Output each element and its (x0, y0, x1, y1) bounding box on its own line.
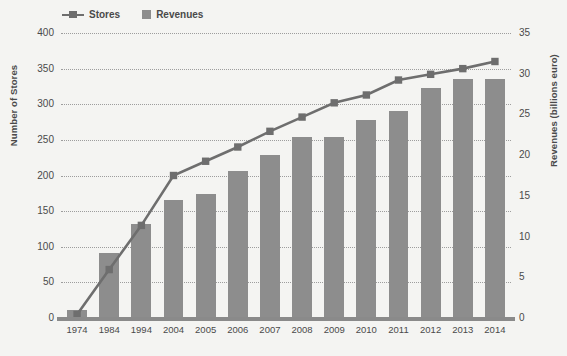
x-tick-label: 2013 (447, 324, 479, 335)
stores-marker-2005 (202, 158, 209, 165)
x-tick-label: 1984 (93, 324, 125, 335)
plot-area: 400350300250200150100500 35302520151050 (61, 33, 511, 318)
x-tick-label: 2009 (318, 324, 350, 335)
stores-marker-2012 (427, 71, 434, 78)
y-tick-label-right: 0 (519, 313, 525, 323)
square-swatch-icon (142, 10, 151, 19)
legend-item-revenues: Revenues (142, 9, 203, 20)
stores-marker-2014 (491, 58, 498, 65)
y-tick-label-right: 35 (519, 28, 530, 38)
stores-marker-1994 (138, 222, 145, 229)
stores-marker-2011 (395, 76, 402, 83)
y-tick-label-left: 300 (37, 99, 54, 109)
y-tick-label-left: 400 (37, 28, 54, 38)
x-tick-label: 2004 (157, 324, 189, 335)
y-tick-label-right: 25 (519, 109, 530, 119)
chart-legend: Stores Revenues (62, 9, 203, 20)
y-tick-label-left: 200 (37, 171, 54, 181)
y-tick-label-right: 20 (519, 150, 530, 160)
y-axis-left-title: Number of Stores (8, 46, 19, 166)
y-tick-label-left: 350 (37, 64, 54, 74)
chart-container: Number of Stores Revenues (billions euro… (0, 0, 567, 356)
stores-line-path (77, 62, 495, 315)
x-tick-label: 2008 (286, 324, 318, 335)
stores-marker-1984 (106, 266, 113, 273)
stores-marker-2006 (234, 143, 241, 150)
line-series-stores (61, 33, 511, 318)
legend-label-revenues: Revenues (156, 9, 203, 20)
stores-marker-2008 (298, 113, 305, 120)
legend-item-stores: Stores (62, 9, 120, 20)
legend-label-stores: Stores (89, 9, 120, 20)
y-tick-label-left: 250 (37, 135, 54, 145)
x-tick-label: 2014 (479, 324, 511, 335)
x-tick-label: 2012 (415, 324, 447, 335)
stores-marker-2013 (459, 65, 466, 72)
y-axis-right-title: Revenues (billions euro) (548, 41, 559, 181)
y-tick-label-right: 10 (519, 232, 530, 242)
y-tick-label-right: 5 (519, 272, 525, 282)
stores-marker-2004 (170, 172, 177, 179)
stores-marker-2007 (266, 128, 273, 135)
y-tick-label-left: 100 (37, 242, 54, 252)
y-tick-label-right: 30 (519, 69, 530, 79)
stores-marker-2009 (331, 99, 338, 106)
y-tick-label-left: 150 (37, 206, 54, 216)
x-axis-labels: 1974198419942004200520062007200820092010… (61, 324, 511, 335)
x-tick-label: 2007 (254, 324, 286, 335)
x-tick-label: 2011 (382, 324, 414, 335)
x-axis-baseline (57, 317, 515, 321)
y-tick-label-right: 15 (519, 191, 530, 201)
x-tick-label: 1974 (61, 324, 93, 335)
x-tick-label: 2005 (190, 324, 222, 335)
line-marker-icon (62, 10, 84, 19)
y-tick-label-left: 0 (48, 313, 54, 323)
stores-marker-2010 (363, 91, 370, 98)
x-tick-label: 1994 (125, 324, 157, 335)
x-tick-label: 2010 (350, 324, 382, 335)
x-tick-label: 2006 (222, 324, 254, 335)
y-tick-label-left: 50 (43, 277, 54, 287)
